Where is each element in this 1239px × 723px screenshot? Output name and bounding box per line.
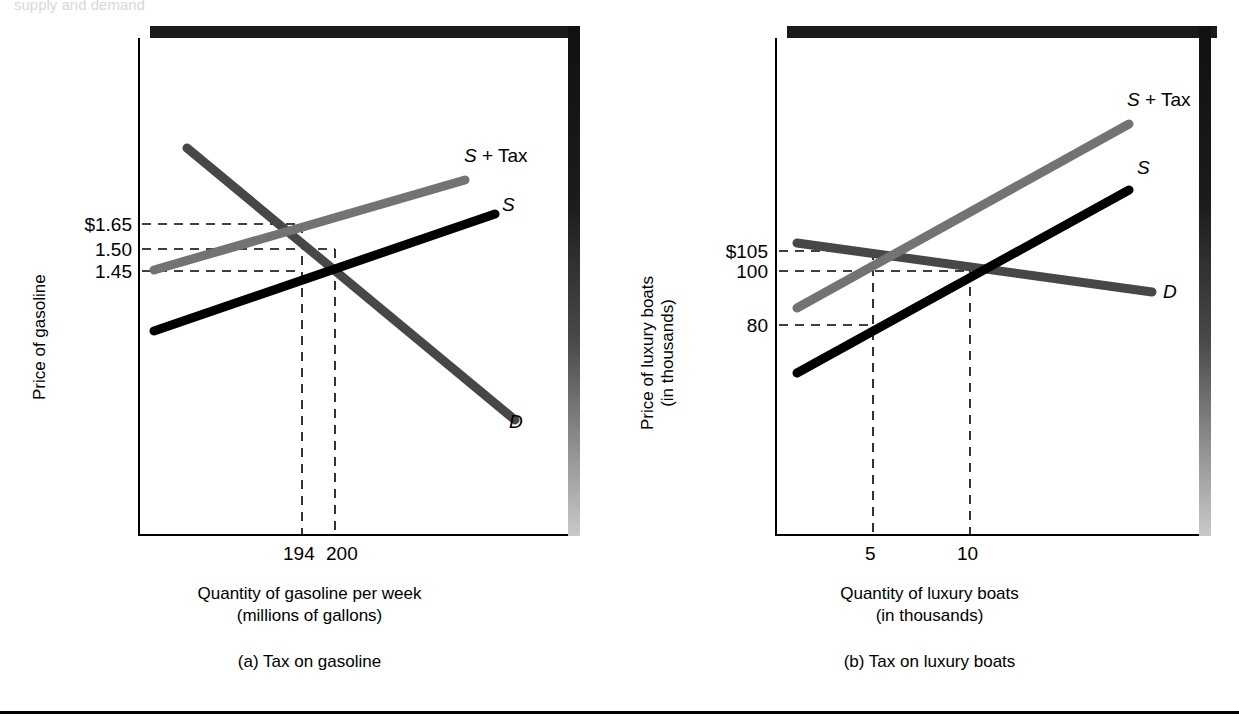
ytick-label-a-1: 1.50 [46, 239, 132, 261]
panel-a-tax-on-gasoline: S + Tax S D $1.65 1.50 1.45 Price of gas… [0, 0, 619, 700]
yaxis-title-b: Price of luxury boats (in thousands) [638, 276, 678, 430]
xaxis-title-line1-b: Quantity of luxury boats [620, 583, 1239, 605]
curve-label-s-italic-b: S [1127, 89, 1140, 110]
ytick-label-b-0: $105 [680, 241, 768, 263]
curve-demand-a [187, 148, 515, 420]
xaxis-title-a: Quantity of gasoline per week (millions … [0, 583, 619, 627]
curve-supply-a [154, 214, 495, 331]
xaxis-title-b: Quantity of luxury boats (in thousands) [620, 583, 1239, 627]
curve-label-supply-plus-tax-b: S + Tax [1127, 89, 1191, 111]
panel-caption-b: (b) Tax on luxury boats [620, 652, 1239, 672]
curve-label-demand-a: D [509, 411, 523, 433]
plot-area-a: S + Tax S D [138, 38, 568, 536]
curve-label-demand-b: D [1163, 281, 1177, 303]
curve-supply-plus-tax-a [154, 180, 465, 270]
curve-label-s-italic-a: S [464, 145, 477, 166]
xtick-label-a-0: 194 [283, 543, 315, 565]
plot-shadow-top-a [150, 26, 580, 38]
plot-area-b: S + Tax S D [775, 38, 1199, 536]
curve-label-supply-a: S [502, 194, 515, 216]
curve-label-supply-b: S [1137, 157, 1150, 179]
guide-lines-a [142, 224, 335, 534]
ytick-label-b-1: 100 [680, 261, 768, 283]
plot-frame-b [775, 38, 1199, 536]
plot-shadow-top-b [787, 26, 1217, 38]
xaxis-title-line2-b: (in thousands) [620, 605, 1239, 627]
xaxis-title-line2-a: (millions of gallons) [0, 605, 619, 627]
figure-two-tax-panels: supply and demand [0, 0, 1239, 723]
ytick-label-a-2: 1.45 [46, 261, 132, 283]
xaxis-title-line1-a: Quantity of gasoline per week [0, 583, 619, 605]
plot-frame-a [138, 38, 568, 536]
curve-demand-b [797, 243, 1152, 292]
yaxis-title-line1-a: Price of gasoline [30, 274, 49, 400]
figure-bottom-rule [0, 711, 1239, 714]
yaxis-title-line2-b: (in thousands) [658, 276, 678, 430]
yaxis-title-a: Price of gasoline [30, 274, 50, 400]
ytick-label-a-0: $1.65 [46, 214, 132, 236]
curve-label-tax-suffix-a: + Tax [477, 145, 528, 166]
panel-b-tax-on-luxury-boats: S + Tax S D $105 100 80 Price of luxury … [620, 0, 1239, 700]
curve-label-supply-plus-tax-a: S + Tax [464, 145, 528, 167]
xtick-label-a-1: 200 [326, 543, 358, 565]
xtick-label-b-0: 5 [865, 543, 876, 565]
xtick-label-b-1: 10 [957, 543, 978, 565]
yaxis-title-line1-b: Price of luxury boats [638, 276, 658, 430]
panel-caption-a: (a) Tax on gasoline [0, 652, 619, 672]
ytick-label-b-2: 80 [680, 315, 768, 337]
curve-label-tax-suffix-b: + Tax [1140, 89, 1191, 110]
